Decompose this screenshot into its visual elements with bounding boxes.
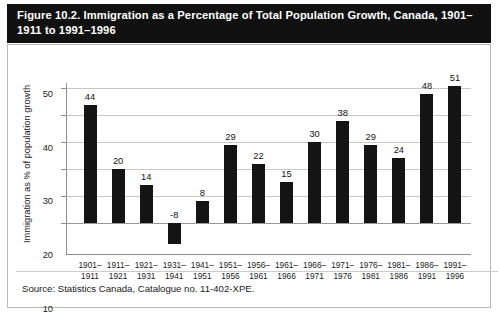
x-cat-line1: 1921– <box>135 260 158 270</box>
gridline-20 <box>67 169 471 170</box>
x-cat-line2: 1981 <box>362 271 380 281</box>
x-cat-line1: 1911– <box>107 260 129 270</box>
bar <box>364 145 377 223</box>
x-cat-line2: 1956 <box>221 271 239 281</box>
x-cat-line2: 1976 <box>333 271 351 281</box>
x-cat-line1: 1981– <box>387 260 410 270</box>
x-cat-line2: 1931 <box>137 271 155 281</box>
bar <box>308 142 321 223</box>
y-axis-title: Immigration as % of population growth <box>22 79 36 249</box>
gridline-50 <box>67 88 471 89</box>
bar-value-label: 24 <box>394 145 404 155</box>
x-cat-line2: 1996 <box>446 271 464 281</box>
bar-value-label: 38 <box>338 108 348 118</box>
x-cat-line2: 1991 <box>418 271 436 281</box>
bar <box>84 105 97 223</box>
chart-plot-area: Immigration as % of population growth 01… <box>28 75 476 280</box>
bar <box>196 201 209 223</box>
y-tick-label: 50 <box>43 89 53 99</box>
x-cat-line1: 1986– <box>415 260 438 270</box>
chart-canvas: 01020304050 442014-88292215303829244851 … <box>66 83 471 255</box>
x-cat-line1: 1971– <box>331 260 354 270</box>
figure-root: Figure 10.2. Immigration as a Percentage… <box>0 0 499 316</box>
bar-value-label: 44 <box>85 92 95 102</box>
bar <box>448 86 461 223</box>
x-cat-line2: 1971 <box>305 271 323 281</box>
x-cat-line2: 1986 <box>390 271 408 281</box>
x-cat-line2: 1961 <box>249 271 267 281</box>
y-tick-label: 10 <box>43 304 53 314</box>
x-cat-line1: 1931– <box>163 260 186 270</box>
bar <box>280 182 293 222</box>
x-cat-line1: 1901– <box>78 260 101 270</box>
y-tick-50: 50 <box>61 88 66 89</box>
bar <box>168 223 181 245</box>
bar-value-label: 8 <box>200 188 205 198</box>
y-tick-label: 30 <box>43 196 53 206</box>
y-tick-40: 40 <box>61 115 66 116</box>
source-note: Source: Statistics Canada, Catalogue no.… <box>22 283 254 294</box>
bar <box>252 164 265 223</box>
y-tick-0: 0 <box>61 223 66 224</box>
x-cat-line2: 1966 <box>277 271 295 281</box>
bar <box>420 94 433 223</box>
x-cat-line2: 1911 <box>81 271 99 281</box>
y-tick-label: 20 <box>43 250 53 260</box>
x-cat-line2: 1941 <box>165 271 183 281</box>
y-tick-label: 40 <box>43 143 53 153</box>
page-title: Figure 10.2. Immigration as a Percentage… <box>17 8 481 38</box>
bar <box>112 169 125 223</box>
bar <box>392 158 405 223</box>
source-divider <box>16 271 498 272</box>
x-axis-line <box>66 254 471 255</box>
y-tick-20: 20 <box>61 169 66 170</box>
x-cat-line2: 1951 <box>193 271 211 281</box>
bar-value-label: 20 <box>113 156 123 166</box>
bar-value-label: 30 <box>309 129 319 139</box>
bar-value-label: 51 <box>450 73 460 83</box>
bar <box>336 121 349 223</box>
figure-title-banner: Figure 10.2. Immigration as a Percentage… <box>7 4 491 43</box>
x-cat-line1: 1941– <box>191 260 214 270</box>
x-cat-line1: 1951– <box>219 260 242 270</box>
x-cat-line1: 1976– <box>359 260 382 270</box>
x-cat-line2: 1921 <box>109 271 127 281</box>
gridline-40 <box>67 115 471 116</box>
bar-value-label: 48 <box>422 81 432 91</box>
y-tick-10: 10 <box>61 196 66 197</box>
bar-value-label: 22 <box>253 151 263 161</box>
bar <box>224 145 237 223</box>
gridline-30 <box>67 142 471 143</box>
bar-value-label: 15 <box>281 169 291 179</box>
gridline-0 <box>67 223 471 224</box>
x-cat-line1: 1956– <box>247 260 270 270</box>
bar-value-label: -8 <box>170 210 178 220</box>
y-tick-30: 30 <box>61 142 66 143</box>
bar-value-label: 29 <box>366 132 376 142</box>
x-cat-line1: 1966– <box>303 260 326 270</box>
x-cat-line1: 1991– <box>443 260 466 270</box>
bar-value-label: 14 <box>141 172 151 182</box>
bar-value-label: 29 <box>225 132 235 142</box>
figure-body-frame: Immigration as % of population growth 01… <box>7 44 491 308</box>
x-cat-line1: 1961– <box>275 260 298 270</box>
bar <box>140 185 153 223</box>
gridline-10 <box>67 196 471 197</box>
